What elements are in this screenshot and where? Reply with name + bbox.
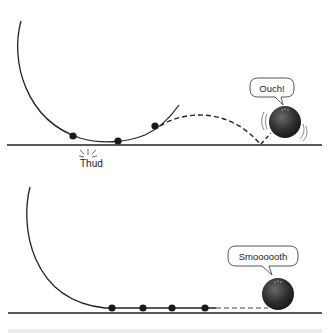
ouch-speech-bubble: Ouch! — [250, 78, 294, 105]
top-bounce-dashed — [261, 133, 271, 144]
bottom-ramp-curve — [27, 187, 216, 308]
diagram-canvas: Thud Ouch! — [0, 0, 336, 333]
top-ball-1 — [69, 132, 76, 139]
top-ball-3 — [151, 122, 158, 129]
bottom-ball-4 — [201, 304, 208, 311]
top-bowling-ball — [269, 106, 301, 138]
thud-label: Thud — [80, 158, 103, 169]
bottom-bowling-ball — [262, 278, 294, 310]
bottom-gray-band — [8, 329, 322, 333]
smooth-text: Smoooooth — [239, 251, 288, 262]
thud-impact-icon — [79, 149, 97, 157]
bottom-ball-3 — [168, 304, 175, 311]
bottom-panel: Smoooooth — [8, 187, 322, 313]
ouch-text: Ouch! — [259, 83, 284, 94]
top-panel: Thud Ouch! — [7, 21, 322, 169]
top-trajectory-dashed — [160, 115, 260, 144]
top-ball-2 — [114, 137, 121, 144]
smooth-speech-bubble: Smoooooth — [228, 246, 298, 275]
bottom-ball-1 — [108, 304, 115, 311]
bottom-ball-2 — [139, 304, 146, 311]
